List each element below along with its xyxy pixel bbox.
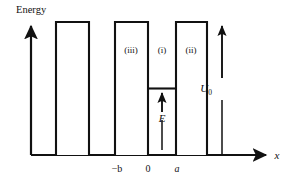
figure-canvas: Energy x (iii) (i) (ii) E U0 −b 0 a <box>0 0 293 185</box>
tick-label-zero: 0 <box>146 163 151 174</box>
tick-label-a: a <box>175 163 180 174</box>
tick-label-minus-b: −b <box>112 163 123 174</box>
x-axis-label: x <box>274 149 280 161</box>
energy-level-label: E <box>158 112 166 124</box>
barrier-height-subscript: 0 <box>208 88 212 97</box>
energy-axis-label: Energy <box>16 4 47 15</box>
region-ii-label: (ii) <box>186 45 197 55</box>
region-i-label: (i) <box>158 45 167 55</box>
potential-barrier-figure: Energy x (iii) (i) (ii) E U0 −b 0 a <box>0 0 293 185</box>
region-iii-label: (iii) <box>124 45 138 55</box>
barrier-left <box>56 22 89 155</box>
barrier-region-iii <box>115 22 148 155</box>
